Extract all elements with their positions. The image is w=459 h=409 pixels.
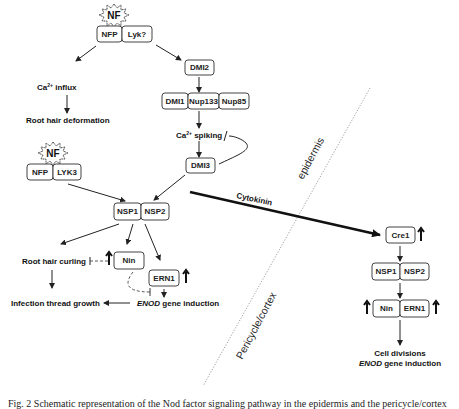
enod-induction-epidermis-label: ENOD gene induction (137, 299, 219, 308)
svg-text:ERN1: ERN1 (404, 304, 426, 313)
epidermis-cortex-boundary (203, 88, 370, 386)
root-hair-deformation-label: Root hair deformation (26, 116, 110, 125)
nod-factor-left: NF (38, 142, 68, 165)
up-arrow-icon (364, 301, 370, 314)
enod-induction-cortex-label: ENOD gene induction (359, 359, 441, 368)
up-arrow-icon (183, 270, 189, 283)
svg-text:NSP2: NSP2 (404, 267, 425, 276)
svg-text:LYK3: LYK3 (57, 168, 77, 177)
root-hair-curling-label: Root hair curling (22, 257, 86, 266)
ca-influx-label: Ca2+ influx (37, 82, 77, 92)
svg-text:NSP2: NSP2 (145, 207, 166, 216)
cytokinin-arrow (190, 192, 380, 235)
svg-text:NSP1: NSP1 (117, 207, 138, 216)
pericycle-cortex-region-label: Pericycle/cortex (233, 289, 279, 361)
svg-text:Nin: Nin (123, 256, 136, 265)
svg-text:Nup85: Nup85 (222, 97, 247, 106)
receptor-nfp-lyk: NFP Lyk? (97, 26, 152, 42)
cytokinin-label: Cytokinin (236, 191, 274, 207)
nin-node-epidermis: Nin (114, 252, 144, 269)
svg-text:NSP1: NSP1 (376, 267, 397, 276)
svg-text:Nin: Nin (380, 304, 393, 313)
up-arrow-icon (106, 252, 112, 265)
nsp-complex-epidermis: NSP1 NSP2 (114, 203, 169, 220)
nfp-label: NFP (102, 30, 119, 39)
up-arrow-icon (433, 301, 439, 314)
ern1-node-epidermis: ERN1 (149, 270, 179, 286)
svg-text:DMI3: DMI3 (191, 161, 211, 170)
figure-caption: Fig. 2 Schematic representation of the N… (8, 398, 447, 409)
svg-text:DMI1: DMI1 (165, 97, 185, 106)
svg-text:Nup133: Nup133 (189, 97, 218, 106)
nod-factor-top: NF (99, 4, 129, 27)
nin-enod-inhibition (128, 272, 150, 292)
up-arrow-icon (418, 228, 424, 241)
infection-thread-growth-label: Infection thread growth (11, 299, 100, 308)
svg-text:NFP: NFP (32, 168, 49, 177)
ca-spiking-label: Ca2+ spiking (176, 130, 222, 140)
receptor-nfp-lyk3: NFP LYK3 (27, 164, 81, 180)
nuclear-pore-complex: DMI1 Nup133 Nup85 (162, 93, 249, 109)
cre1-node: Cre1 (386, 227, 415, 243)
lyk-label: Lyk? (128, 30, 146, 39)
dmi3-node: DMI3 (186, 158, 215, 173)
svg-text:DMI2: DMI2 (190, 63, 210, 72)
svg-text:ERN1: ERN1 (153, 274, 175, 283)
nin-ern1-cortex: Nin ERN1 (373, 300, 429, 317)
nsp-complex-cortex: NSP1 NSP2 (372, 263, 429, 280)
svg-text:NF: NF (46, 148, 59, 159)
svg-text:NF: NF (107, 10, 120, 21)
dmi2-node: DMI2 (185, 60, 214, 75)
svg-text:Cre1: Cre1 (392, 231, 410, 240)
dmi3-feedback-inhibition (219, 136, 247, 164)
cell-divisions-label: Cell divisions (374, 349, 426, 358)
